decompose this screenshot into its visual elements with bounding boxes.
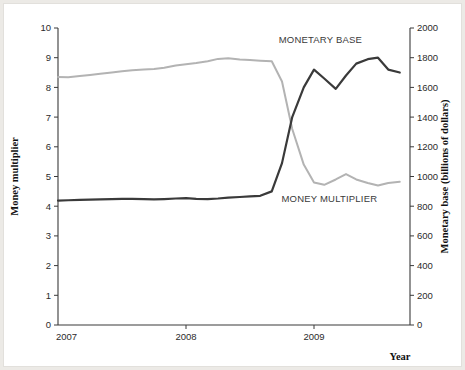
x-axis-tick-label: 2008 [175,331,196,342]
series-annotation: MONETARY BASE [279,34,362,45]
left-axis-tick-label: 5 [46,171,51,182]
dual-axis-line-chart: 0123456789100200400600800100012001400160… [4,4,461,366]
series-annotation: MONEY MULTIPLIER [281,193,377,204]
left-axis-tick-label: 7 [46,112,51,123]
chart-figure: 0123456789100200400600800100012001400160… [4,4,461,366]
left-axis-tick-label: 10 [40,22,51,33]
right-axis-tick-label: 2000 [417,22,438,33]
left-axis-tick-label: 6 [46,141,51,152]
left-axis-title: Money multiplier [9,137,20,216]
left-axis-tick-label: 2 [46,260,51,271]
right-axis-tick-label: 1800 [417,52,438,63]
right-axis-title: Monetary base (billions of dollars) [439,99,451,254]
left-axis-tick-label: 0 [46,319,51,330]
right-axis-tick-label: 1200 [417,141,438,152]
left-axis-tick-label: 3 [46,230,51,241]
left-axis-tick-label: 9 [46,52,51,63]
right-axis-tick-label: 200 [417,290,433,301]
left-axis-tick-label: 8 [46,82,51,93]
x-axis-tick-label: 2009 [303,331,324,342]
left-axis-tick-label: 1 [46,290,51,301]
left-axis-tick-label: 4 [46,201,51,212]
right-axis-tick-label: 1000 [417,171,438,182]
right-axis-tick-label: 400 [417,260,433,271]
x-axis-title: Year [390,351,411,362]
right-axis-tick-label: 800 [417,201,433,212]
right-axis-tick-label: 1400 [417,112,438,123]
right-axis-tick-label: 0 [417,319,422,330]
right-axis-tick-label: 600 [417,230,433,241]
x-axis-tick-label: 2007 [56,331,77,342]
right-axis-tick-label: 1600 [417,82,438,93]
